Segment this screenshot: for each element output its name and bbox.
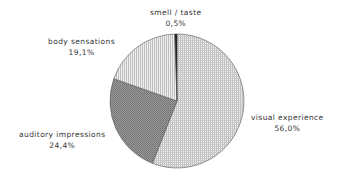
label-value: 24,4% <box>19 140 105 151</box>
label-visual-experience: visual experience 56,0% <box>251 112 324 134</box>
label-body-sensations: body sensations 19,1% <box>48 36 115 58</box>
label-value: 56,0% <box>251 123 324 134</box>
label-name: visual experience <box>251 112 324 123</box>
label-value: 0,5% <box>150 18 202 29</box>
label-auditory-impressions: auditory impressions 24,4% <box>19 129 105 151</box>
label-name: smell / taste <box>150 7 202 18</box>
label-name: body sensations <box>48 36 115 47</box>
label-name: auditory impressions <box>19 129 105 140</box>
label-smell-taste: smell / taste 0,5% <box>150 7 202 29</box>
label-value: 19,1% <box>48 47 115 58</box>
pie-chart: smell / taste 0,5% body sensations 19,1%… <box>0 0 344 183</box>
